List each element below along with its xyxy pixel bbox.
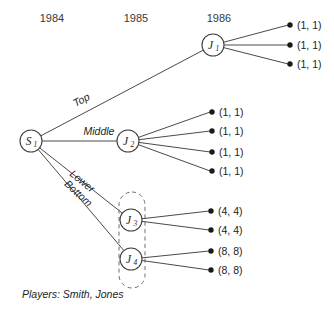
payoff-label: (1, 1)	[219, 165, 244, 177]
information-set-group	[119, 192, 145, 288]
note-group: Players: Smith, Jones	[22, 288, 124, 300]
node-letter-J3: J	[126, 214, 132, 226]
terminal-node-dot	[208, 248, 213, 253]
payoff-label: (1, 1)	[219, 125, 244, 137]
payoff-label: (1, 1)	[297, 19, 322, 31]
payoff-label: (4, 4)	[218, 205, 243, 217]
terminal-branch-J2-4	[139, 131, 210, 140]
node-subscript-J1: 1	[216, 44, 220, 53]
terminal-branch-J2-6	[138, 145, 210, 171]
year-label-1985: 1985	[124, 12, 148, 24]
terminal-branch-J1-2	[224, 48, 289, 64]
node-letter-J2: J	[123, 135, 129, 147]
payoff-label: (1, 1)	[297, 39, 322, 51]
jones-information-set	[119, 192, 145, 288]
payoff-label: (8, 8)	[218, 264, 243, 276]
payoff-label: (1, 1)	[219, 146, 244, 158]
payoff-label: (4, 4)	[218, 224, 243, 236]
node-group: S1J1J2J3J4	[20, 34, 224, 270]
terminal-branch-J2-5	[139, 142, 210, 152]
terminal-branch-J4-9	[142, 251, 209, 258]
node-subscript-J4: 4	[134, 258, 138, 267]
node-letter-S1: S	[26, 135, 32, 147]
terminal-node-dot	[209, 168, 214, 173]
node-letter-J1: J	[208, 39, 214, 51]
payoff-label: (1, 1)	[297, 58, 322, 70]
year-label-1984: 1984	[40, 12, 64, 24]
terminal-node-dot	[208, 227, 213, 232]
year-label-group: 198419851986	[40, 12, 231, 24]
terminal-group: (1, 1)(1, 1)(1, 1)(1, 1)(1, 1)(1, 1)(1, …	[138, 19, 321, 276]
node-S1: S1	[20, 130, 42, 152]
tree-canvas: 198419851986 (1, 1)(1, 1)(1, 1)(1, 1)(1,…	[0, 0, 334, 312]
node-J2: J2	[117, 130, 139, 152]
terminal-node-dot	[209, 128, 214, 133]
terminal-node-dot	[209, 149, 214, 154]
node-J1: J1	[202, 34, 224, 56]
node-subscript-S1: 1	[34, 140, 38, 149]
node-subscript-J3: 3	[133, 219, 138, 228]
terminal-branch-J3-7	[142, 211, 209, 219]
edge-label-group: TopMiddleLowerBottom	[62, 90, 114, 209]
node-subscript-J2: 2	[131, 140, 135, 149]
node-J3: J3	[120, 209, 142, 231]
terminal-node-dot	[208, 208, 213, 213]
terminal-branch-J1-0	[224, 25, 289, 42]
game-tree-diagram: 198419851986 (1, 1)(1, 1)(1, 1)(1, 1)(1,…	[0, 0, 334, 312]
terminal-branch-J4-10	[142, 260, 209, 270]
terminal-node-dot	[287, 42, 292, 47]
node-J4: J4	[120, 248, 142, 270]
terminal-node-dot	[209, 109, 214, 114]
terminal-node-dot	[287, 22, 292, 27]
terminal-node-dot	[287, 61, 292, 66]
players-note: Players: Smith, Jones	[22, 288, 124, 300]
payoff-label: (8, 8)	[218, 245, 243, 257]
year-label-1986: 1986	[207, 12, 231, 24]
payoff-label: (1, 1)	[219, 106, 244, 118]
terminal-branch-J2-3	[138, 112, 210, 137]
edge-label-middle: Middle	[84, 125, 115, 137]
terminal-branch-J3-8	[142, 221, 209, 230]
edge-label-top: Top	[71, 90, 92, 109]
node-letter-J4: J	[126, 253, 132, 265]
terminal-node-dot	[208, 267, 213, 272]
